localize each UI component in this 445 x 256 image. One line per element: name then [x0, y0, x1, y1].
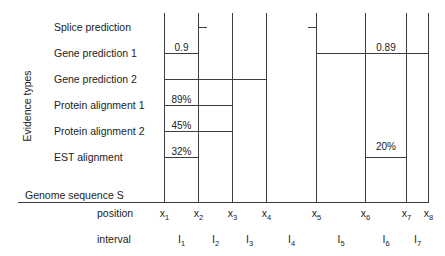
position-subscript: 5 [317, 213, 321, 222]
interval-subscript: 2 [215, 239, 219, 248]
evidence-score-label: 0.9 [175, 42, 189, 53]
interval-label: I1 [178, 233, 185, 248]
interval-subscript: 4 [291, 239, 295, 248]
position-label: x7 [402, 207, 411, 222]
y-axis-label: Evidence types [21, 70, 33, 141]
evidence-type-label: Protein alignment 2 [54, 125, 145, 137]
position-label: x2 [194, 207, 203, 222]
position-subscript: 4 [267, 213, 271, 222]
position-subscript: 8 [429, 213, 433, 222]
position-subscript: 3 [233, 213, 237, 222]
evidence-row: EST alignment32%20% [54, 141, 407, 163]
interval-labels: I1I2I3I4I5I6I7 [178, 233, 421, 248]
interval-subscript: 6 [385, 239, 389, 248]
evidence-row: Splice prediction [54, 21, 317, 33]
interval-label: I3 [246, 233, 253, 248]
position-labels: x1x2x3x4x5x6x7x8 [160, 207, 433, 222]
evidence-score-label: 45% [171, 120, 191, 131]
evidence-type-label: Gene prediction 1 [54, 47, 137, 59]
evidence-type-label: EST alignment [54, 151, 123, 163]
position-label: x8 [424, 207, 433, 222]
evidence-score-label: 20% [376, 141, 396, 152]
position-label: x4 [262, 207, 271, 222]
evidence-row: Protein alignment 189% [54, 94, 233, 111]
position-label: x1 [160, 207, 169, 222]
position-label: x5 [312, 207, 321, 222]
interval-label: I5 [337, 233, 344, 248]
interval-row-label: interval [97, 233, 131, 245]
position-label: x6 [361, 207, 370, 222]
evidence-score-label: 89% [171, 94, 191, 105]
evidence-row: Protein alignment 245% [54, 120, 233, 137]
position-subscript: 7 [407, 213, 411, 222]
interval-label: I7 [414, 233, 421, 248]
evidence-row: Gene prediction 10.90.89 [54, 42, 429, 59]
evidence-type-label: Gene prediction 2 [54, 73, 137, 85]
position-row-label: position [97, 207, 133, 219]
evidence-score-label: 32% [171, 146, 191, 157]
position-label: x3 [228, 207, 237, 222]
interval-label: I2 [212, 233, 219, 248]
evidence-type-label: Splice prediction [54, 21, 131, 33]
evidence-row: Gene prediction 2 [54, 73, 267, 85]
position-subscript: 1 [165, 213, 169, 222]
evidence-type-label: Protein alignment 1 [54, 99, 145, 111]
interval-subscript: 7 [417, 239, 421, 248]
evidence-score-label: 0.89 [376, 42, 396, 53]
interval-subscript: 1 [181, 239, 185, 248]
interval-subscript: 5 [340, 239, 344, 248]
evidence-diagram: Evidence types Splice predictionGene pre… [0, 0, 445, 256]
position-subscript: 2 [199, 213, 203, 222]
evidence-rows: Splice predictionGene prediction 10.90.8… [54, 21, 429, 163]
genome-sequence-label: Genome sequence S [25, 189, 124, 201]
interval-label: I4 [288, 233, 295, 248]
position-subscript: 6 [366, 213, 370, 222]
interval-label: I6 [382, 233, 389, 248]
interval-subscript: 3 [249, 239, 253, 248]
